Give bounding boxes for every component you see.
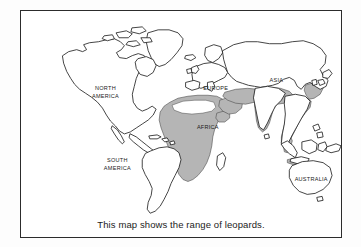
world-map: NORTH AMERICA SOUTH AMERICA EUROPE ASIA … [21, 11, 341, 237]
coast-south-america [142, 147, 181, 213]
figure-container: NORTH AMERICA SOUTH AMERICA EUROPE ASIA … [0, 0, 361, 247]
coast-tasmania [317, 196, 323, 201]
coast-sri-lanka [264, 134, 269, 139]
label-north-america-line2: AMERICA [92, 93, 119, 99]
map-frame: NORTH AMERICA SOUTH AMERICA EUROPE ASIA … [20, 10, 342, 238]
coast-arctic-island-1 [116, 31, 132, 38]
coast-arctic-island-4 [126, 41, 140, 47]
label-australia: AUSTRALIA [295, 176, 328, 182]
coast-sulawesi [318, 142, 327, 152]
coast-iceland [185, 55, 196, 61]
coast-scandinavia [205, 45, 223, 63]
label-north-america: NORTH [95, 85, 116, 91]
coast-philippines-1 [313, 124, 320, 131]
coast-philippines-2 [317, 132, 323, 138]
label-europe: EUROPE [203, 85, 228, 91]
coast-indochina [281, 94, 310, 147]
label-africa: AFRICA [197, 124, 219, 130]
coast-caribbean-1 [149, 135, 161, 139]
coast-arctic-island-2 [131, 27, 146, 34]
coast-korea [312, 79, 317, 85]
coast-caribbean-3 [170, 141, 175, 145]
coast-japan-1 [323, 69, 332, 78]
label-south-america-line2: AMERICA [104, 165, 131, 171]
coast-ireland [187, 68, 192, 73]
label-asia: ASIA [270, 77, 284, 83]
coast-arctic-island-5 [141, 38, 152, 43]
map-caption: This map shows the range of leopards. [21, 219, 341, 230]
coast-borneo [302, 140, 317, 154]
coast-iberia [186, 80, 200, 90]
coast-madagascar [217, 153, 226, 171]
label-south-america: SOUTH [107, 157, 128, 163]
coast-new-guinea [326, 144, 341, 153]
